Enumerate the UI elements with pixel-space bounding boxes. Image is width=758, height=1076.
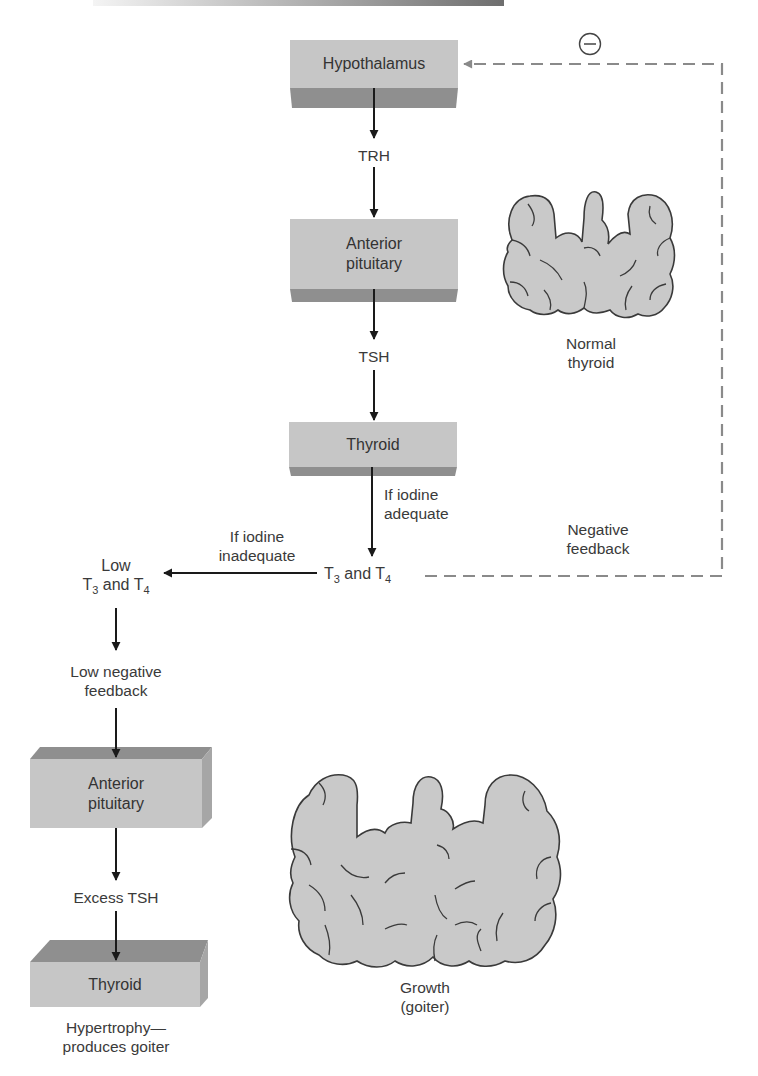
- anterior-pituitary-label-top: Anterior pituitary: [290, 219, 458, 289]
- thyroid-label-top: Thyroid: [289, 422, 457, 467]
- goiter-line2: (goiter): [370, 997, 480, 1016]
- low-feedback-line1: Low negative: [46, 662, 186, 681]
- negative-feedback-label: Negative feedback: [548, 520, 648, 558]
- normal-thyroid-line1: Normal: [546, 334, 636, 353]
- hypertrophy-line2: produces goiter: [36, 1037, 196, 1056]
- hypertrophy-line1: Hypertrophy—: [36, 1018, 196, 1037]
- normal-thyroid-line2: thyroid: [546, 353, 636, 372]
- low-line: Low: [60, 556, 172, 575]
- normal-thyroid-icon: [504, 192, 675, 318]
- low-t3-t4-label: Low T3 and T4: [60, 556, 172, 594]
- anterior-pituitary-line1: Anterior: [88, 774, 144, 794]
- anterior-pituitary-line2: pituitary: [346, 254, 402, 274]
- iodine-adequate-line2: adequate: [384, 504, 449, 523]
- iodine-adequate-label: If iodine adequate: [384, 485, 449, 523]
- tsh-label: TSH: [334, 347, 414, 366]
- excess-tsh-label: Excess TSH: [46, 888, 186, 907]
- low-t3-t4-line: T3 and T4: [60, 575, 172, 594]
- and-t: and T: [340, 565, 385, 582]
- goiter-label: Growth (goiter): [370, 978, 480, 1016]
- thyroid-label-bottom: Thyroid: [30, 962, 200, 1007]
- iodine-adequate-line1: If iodine: [384, 485, 449, 504]
- and-t: and T: [98, 576, 143, 593]
- iodine-inadequate-line1: If iodine: [205, 527, 309, 546]
- low-negative-feedback-label: Low negative feedback: [46, 662, 186, 700]
- hypertrophy-label: Hypertrophy— produces goiter: [36, 1018, 196, 1056]
- t4-subscript: 4: [385, 573, 391, 585]
- t4-subscript: 4: [143, 584, 149, 596]
- hypothalamus-label: Hypothalamus: [290, 40, 458, 88]
- trh-label: TRH: [334, 146, 414, 165]
- negative-feedback-line1: Negative: [548, 520, 648, 539]
- anterior-pituitary-line1: Anterior: [346, 234, 402, 254]
- normal-thyroid-label: Normal thyroid: [546, 334, 636, 372]
- anterior-pituitary-label-bottom: Anterior pituitary: [30, 759, 202, 828]
- goiter-thyroid-icon: [290, 775, 561, 967]
- low-feedback-line2: feedback: [46, 681, 186, 700]
- t-prefix: T: [82, 576, 92, 593]
- iodine-inadequate-line2: inadequate: [205, 546, 309, 565]
- t-prefix: T: [324, 565, 334, 582]
- anterior-pituitary-line2: pituitary: [88, 794, 144, 814]
- negative-feedback-line2: feedback: [548, 539, 648, 558]
- t3-t4-label: T3 and T4: [324, 564, 391, 583]
- goiter-line1: Growth: [370, 978, 480, 997]
- iodine-inadequate-label: If iodine inadequate: [205, 527, 309, 565]
